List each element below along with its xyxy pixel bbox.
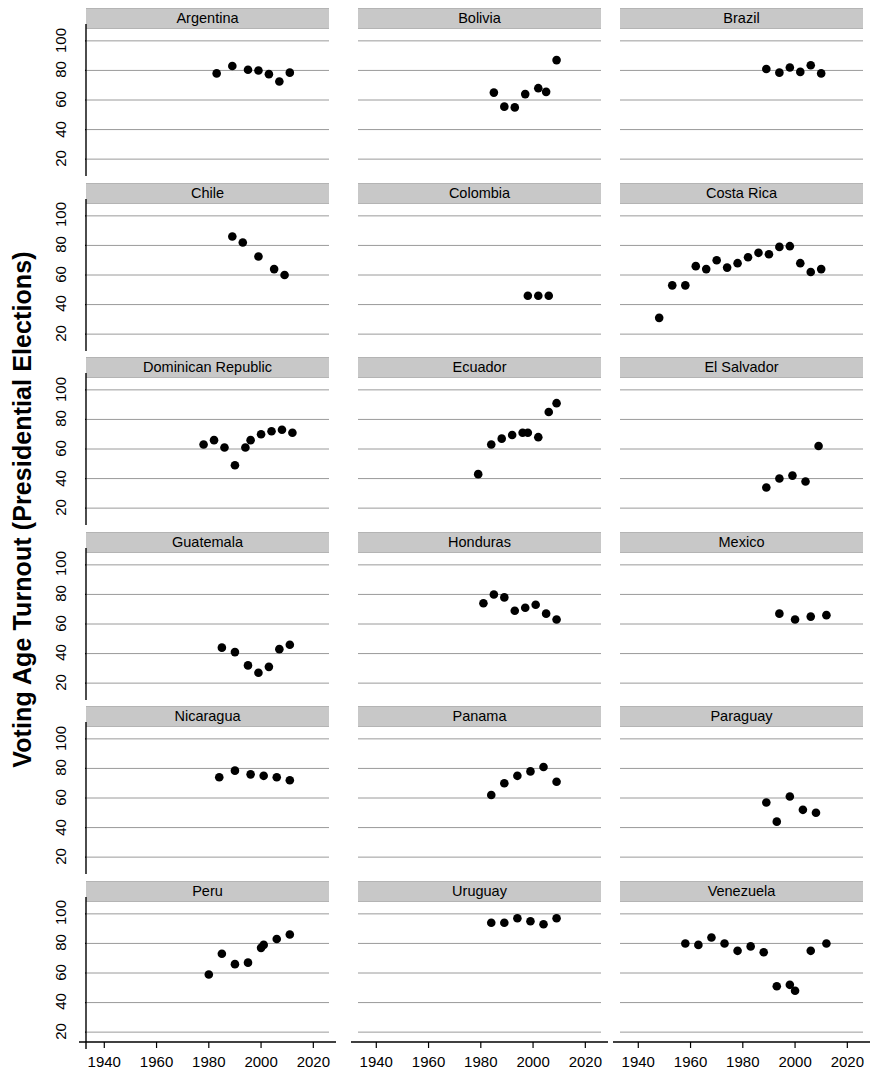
data-point [246, 770, 255, 779]
data-point [280, 270, 289, 279]
plot-area [620, 556, 863, 692]
y-tick-label: 60 [52, 84, 69, 116]
plot-area [86, 730, 329, 866]
scatter-canvas [620, 905, 863, 1041]
y-axis-line [85, 722, 95, 874]
y-tick-label: 80 [52, 403, 69, 435]
y-tick-label: 80 [52, 54, 69, 86]
data-point [552, 615, 561, 624]
data-point [772, 982, 781, 991]
data-point [215, 773, 224, 782]
data-point [539, 763, 548, 772]
scatter-canvas [86, 556, 329, 692]
x-tick-label: 1960 [412, 1053, 445, 1070]
data-point [244, 661, 253, 670]
panel-strip-uruguay: Uruguay [358, 881, 601, 902]
x-axis [620, 1041, 863, 1053]
y-tick-label: 40 [52, 637, 69, 669]
data-point [746, 942, 755, 951]
panel-argentina: Argentina20406080100 [44, 8, 329, 208]
y-tick-label: 100 [52, 199, 69, 231]
scatter-canvas [620, 381, 863, 517]
plot-area [358, 905, 601, 1041]
data-point [220, 443, 229, 452]
data-point [534, 433, 543, 442]
data-point [228, 62, 237, 71]
data-point [817, 264, 826, 273]
data-point [786, 241, 795, 250]
data-point [772, 817, 781, 826]
plot-area [620, 730, 863, 866]
data-point [552, 399, 561, 408]
data-point [681, 281, 690, 290]
y-axis-line [85, 199, 95, 351]
data-point [791, 986, 800, 995]
data-point [231, 461, 240, 470]
data-point [218, 949, 227, 958]
data-point [286, 930, 295, 939]
y-axis-line [85, 24, 95, 176]
panel-strip-el-salvador: El Salvador [620, 357, 863, 378]
data-point [806, 61, 815, 70]
data-point [257, 430, 266, 439]
data-point [205, 970, 214, 979]
panel-honduras: Honduras [316, 532, 601, 732]
panel-strip-paraguay: Paraguay [620, 706, 863, 727]
data-point [744, 252, 753, 261]
y-tick-label: 80 [52, 577, 69, 609]
y-tick-label: 80 [52, 926, 69, 958]
panel-bolivia: Bolivia [316, 8, 601, 208]
y-tick-label: 60 [52, 956, 69, 988]
data-point [210, 436, 219, 445]
panel-panama: Panama [316, 706, 601, 906]
data-point [497, 434, 506, 443]
data-point [272, 934, 281, 943]
panel-title: Panama [452, 709, 506, 724]
data-point [231, 766, 240, 775]
data-point [521, 603, 530, 612]
x-axis [86, 1041, 329, 1053]
panel-strip-costa-rica: Costa Rica [620, 183, 863, 204]
panel-strip-bolivia: Bolivia [358, 8, 601, 29]
data-point [806, 267, 815, 276]
data-point [775, 609, 784, 618]
panel-nicaragua: Nicaragua20406080100 [44, 706, 329, 906]
panel-title: Venezuela [708, 884, 776, 899]
data-point [762, 65, 771, 74]
y-tick-label: 20 [52, 841, 69, 873]
data-point [539, 919, 548, 928]
scatter-canvas [358, 381, 601, 517]
panel-title: Ecuador [452, 360, 506, 375]
data-point [500, 593, 509, 602]
panel-title: Nicaragua [174, 709, 240, 724]
scatter-canvas [620, 556, 863, 692]
panel-dominican-republic: Dominican Republic20406080100 [44, 357, 329, 557]
data-point [796, 68, 805, 77]
data-point [775, 474, 784, 483]
panel-brazil: Brazil [578, 8, 863, 208]
data-point [259, 772, 268, 781]
data-point [231, 647, 240, 656]
data-point [791, 615, 800, 624]
scatter-canvas [86, 381, 329, 517]
panel-strip-guatemala: Guatemala [86, 532, 329, 553]
scatter-canvas [86, 207, 329, 343]
y-tick-label: 100 [52, 548, 69, 580]
data-point [786, 63, 795, 72]
plot-area [620, 32, 863, 168]
data-point [510, 606, 519, 615]
data-point [286, 68, 295, 77]
data-point [707, 933, 716, 942]
data-point [218, 643, 227, 652]
panel-costa-rica: Costa Rica [578, 183, 863, 383]
data-point [244, 65, 253, 74]
x-tick-label: 1960 [140, 1053, 173, 1070]
panel-guatemala: Guatemala20406080100 [44, 532, 329, 732]
plot-area [358, 32, 601, 168]
plot-area [620, 905, 863, 1041]
data-point [513, 772, 522, 781]
data-point [754, 248, 763, 257]
panel-title: Mexico [719, 535, 765, 550]
y-tick-label: 40 [52, 113, 69, 145]
data-point [275, 77, 284, 86]
